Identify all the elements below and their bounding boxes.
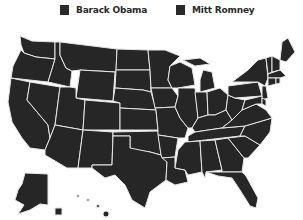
state-mi-up[interactable] [183, 58, 210, 66]
state-mt[interactable] [60, 42, 117, 72]
state-co[interactable] [83, 100, 120, 130]
state-pa[interactable] [228, 82, 262, 98]
state-ny[interactable] [232, 58, 268, 86]
state-nm[interactable] [78, 130, 113, 168]
state-wy[interactable] [76, 70, 115, 101]
state-ct[interactable] [268, 78, 276, 86]
state-nd[interactable] [116, 49, 150, 70]
state-nh[interactable] [272, 56, 280, 72]
state-ks[interactable] [120, 108, 158, 130]
state-hi[interactable] [55, 195, 109, 217]
state-ar[interactable] [158, 135, 178, 158]
state-wi[interactable] [168, 62, 195, 88]
state-de[interactable] [262, 98, 266, 106]
us-map [0, 0, 303, 220]
state-ia[interactable] [151, 88, 178, 108]
state-mi[interactable] [200, 70, 215, 92]
state-ak[interactable] [15, 173, 48, 214]
state-fl[interactable] [206, 172, 258, 208]
state-ri[interactable] [276, 78, 280, 84]
state-me[interactable] [280, 38, 295, 62]
